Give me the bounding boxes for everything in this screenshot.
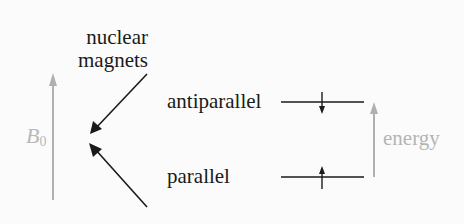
pointer-arrow-lower-icon bbox=[89, 143, 147, 207]
field-label: B0 bbox=[26, 125, 46, 149]
magnetic-field-arrow-icon bbox=[49, 73, 57, 200]
nuclear-magnets-label: nuclear magnets bbox=[60, 27, 148, 71]
antiparallel-label: antiparallel bbox=[167, 91, 261, 112]
title-line-2: magnets bbox=[60, 50, 148, 71]
energy-label: energy bbox=[383, 128, 440, 149]
pointer-arrow-upper-icon bbox=[90, 74, 147, 134]
parallel-label: parallel bbox=[167, 166, 230, 187]
field-subscript: 0 bbox=[39, 134, 46, 149]
energy-arrow-icon bbox=[370, 102, 378, 177]
nmr-spin-energy-diagram: nuclear magnets B0 antiparallel parallel… bbox=[0, 0, 464, 224]
field-symbol: B bbox=[26, 123, 39, 148]
title-line-1: nuclear bbox=[60, 27, 148, 48]
spin-down-arrow-icon bbox=[319, 92, 325, 114]
